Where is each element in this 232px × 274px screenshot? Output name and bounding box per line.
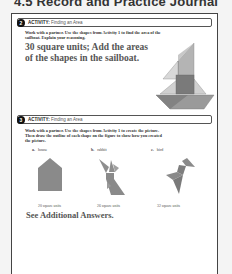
sailboat-figure (148, 41, 218, 111)
activity-number-badge: 2 (17, 19, 25, 27)
bird-figure (165, 158, 197, 196)
additional-answers-note: See Additional Answers. (26, 210, 114, 221)
rabbit-figure (97, 158, 129, 198)
activity-label: ACTIVITY: Finding an Area (28, 117, 82, 122)
figure-caption-house: 20 square units (38, 204, 61, 208)
figure-caption-rabbit: 26 square units (97, 204, 120, 208)
page-title: 4.5 Record and Practice Journal (14, 0, 218, 9)
figure-label-rabbit: b.rabbit (91, 147, 107, 152)
house-figure (36, 158, 66, 194)
activity-label: ACTIVITY: Finding an Area (28, 20, 82, 25)
journal-page: 2 ACTIVITY: Finding an Area Work with a … (11, 13, 218, 274)
activity-2-answer: 30 square units; Add the areas of the sh… (25, 42, 148, 64)
activity-2-instructions: Work with a partner. Use the shapes from… (25, 30, 161, 40)
activity-3-header: 3 ACTIVITY: Finding an Area (17, 115, 212, 124)
figure-label-house: a.house (32, 147, 47, 152)
figure-caption-bird: 32 square units (157, 204, 180, 208)
activity-3-instructions: Work with a partner. Use the shapes from… (25, 128, 162, 143)
activity-2-header: 2 ACTIVITY: Finding an Area (17, 18, 212, 27)
activity-number-badge: 3 (17, 116, 25, 124)
figure-label-bird: c.bird (151, 147, 163, 152)
